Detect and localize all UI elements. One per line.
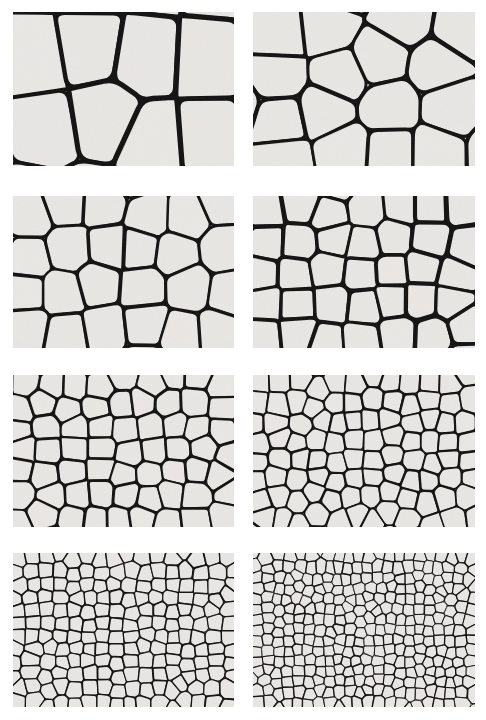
- cell: [138, 652, 153, 668]
- cell: [343, 258, 377, 290]
- cell: [88, 437, 116, 459]
- cell: [38, 563, 53, 578]
- cell: [205, 630, 222, 644]
- cell: [94, 603, 109, 616]
- cell: [121, 577, 137, 592]
- cell: [120, 267, 166, 307]
- cell: [176, 16, 234, 99]
- cell: [68, 653, 81, 667]
- cell: [423, 626, 434, 637]
- cell: [253, 139, 316, 166]
- cell: [152, 654, 166, 668]
- cell: [193, 580, 208, 594]
- cell: [150, 563, 166, 579]
- cell: [314, 285, 349, 324]
- cell-structure-panel-7-tessellation: [13, 553, 234, 707]
- cell: [253, 196, 285, 227]
- cell: [401, 432, 421, 452]
- cell: [13, 604, 25, 618]
- cell: [316, 557, 327, 574]
- cell: [166, 565, 180, 579]
- cell: [446, 196, 475, 227]
- cell: [136, 461, 163, 486]
- cell: [265, 466, 287, 487]
- cell: [88, 481, 114, 509]
- cell: [272, 560, 283, 572]
- cell-structure-panel-8: [253, 553, 475, 707]
- cell: [309, 252, 346, 288]
- cell: [31, 414, 61, 439]
- cell: [222, 616, 234, 631]
- cell: [423, 560, 434, 573]
- cell: [293, 623, 304, 634]
- cell: [262, 655, 275, 665]
- cell: [138, 668, 153, 684]
- cell-structure-panel-5: [13, 375, 234, 527]
- cell: [109, 604, 125, 618]
- cell-structure-panel-1: [13, 12, 234, 166]
- cell: [207, 614, 223, 631]
- cell: [362, 562, 373, 573]
- cell: [315, 656, 326, 667]
- cell: [208, 643, 225, 655]
- cell: [373, 635, 383, 646]
- cell: [125, 681, 140, 697]
- cell: [23, 564, 39, 579]
- cell: [395, 584, 406, 594]
- cell: [324, 432, 345, 454]
- cell: [253, 98, 306, 145]
- cell: [193, 565, 209, 580]
- cell: [39, 601, 54, 616]
- cell-structure-panel-5-tessellation: [13, 375, 234, 527]
- cell-structure-panel-1-tessellation: [13, 12, 234, 166]
- cell: [24, 679, 41, 694]
- cell: [306, 429, 327, 450]
- cell: [191, 694, 206, 707]
- cell: [440, 507, 468, 527]
- cell: [313, 613, 324, 626]
- cell: [123, 667, 139, 682]
- cell: [81, 695, 97, 707]
- cell: [458, 431, 475, 452]
- cell: [433, 624, 445, 636]
- cell: [181, 388, 210, 417]
- cell-structure-panel-4: [253, 196, 475, 348]
- cell: [282, 687, 294, 699]
- cell: [207, 375, 234, 397]
- cell: [52, 591, 69, 604]
- cell: [415, 196, 446, 223]
- cell: [404, 677, 416, 688]
- cell: [108, 631, 124, 644]
- cell: [208, 563, 226, 580]
- cell: [165, 437, 190, 461]
- cell-structure-panel-2: [253, 12, 475, 166]
- cell: [82, 680, 98, 695]
- cell: [414, 644, 426, 655]
- cell: [65, 682, 82, 699]
- cell-structure-panel-6-tessellation: [253, 375, 475, 527]
- cell: [315, 602, 325, 614]
- cell: [13, 617, 26, 630]
- cell: [282, 223, 317, 260]
- cell: [168, 631, 180, 643]
- cell: [61, 437, 88, 461]
- cell: [195, 643, 209, 657]
- cell: [122, 654, 138, 667]
- cell: [178, 615, 194, 629]
- cell: [452, 572, 463, 583]
- cell: [406, 594, 415, 606]
- cell: [108, 644, 124, 657]
- cell-structure-panel-4-tessellation: [253, 196, 475, 348]
- cell: [402, 560, 415, 573]
- cell: [342, 563, 352, 575]
- cell: [180, 508, 212, 527]
- cell: [334, 674, 345, 685]
- cell: [274, 646, 285, 657]
- cell: [253, 287, 281, 322]
- cell: [165, 653, 181, 665]
- cell: [77, 262, 120, 307]
- cell: [381, 445, 404, 465]
- cell: [281, 699, 292, 707]
- cell: [396, 614, 406, 626]
- cell-structure-panel-6: [253, 375, 475, 527]
